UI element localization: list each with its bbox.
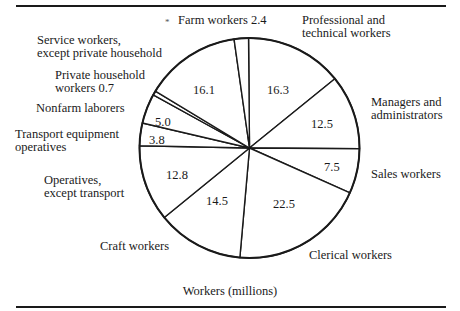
label-professional-line2: technical workers <box>302 27 391 40</box>
value-craft: 14.5 <box>206 195 228 208</box>
footnote-mark: * <box>165 17 170 27</box>
label-transport-line2: operatives <box>15 141 66 154</box>
label-clerical-workers: Clerical workers <box>309 249 392 262</box>
pie-slices <box>139 38 359 258</box>
label-operatives-line2: except transport <box>44 187 124 200</box>
label-managers-line2: administrators <box>371 109 443 122</box>
value-clerical: 22.5 <box>273 198 295 211</box>
value-managers: 12.5 <box>311 118 333 131</box>
value-professional: 16.3 <box>267 84 289 97</box>
chart-caption: Workers (millions) <box>0 284 460 299</box>
label-private-household-line2: workers 0.7 <box>55 82 114 95</box>
label-service-line2: except private household <box>37 47 162 60</box>
bottom-rule <box>16 306 446 308</box>
value-transport: 3.8 <box>149 134 165 147</box>
label-nonfarm-laborers: Nonfarm laborers <box>36 102 125 115</box>
value-operatives: 12.8 <box>166 169 188 182</box>
label-farm-workers: Farm workers 2.4 <box>178 14 267 27</box>
value-service: 16.1 <box>193 84 215 97</box>
label-craft-workers: Craft workers <box>100 240 169 253</box>
label-sales-workers: Sales workers <box>371 168 441 181</box>
value-sales: 7.5 <box>324 161 340 174</box>
value-nonfarm: 5.0 <box>155 116 171 129</box>
